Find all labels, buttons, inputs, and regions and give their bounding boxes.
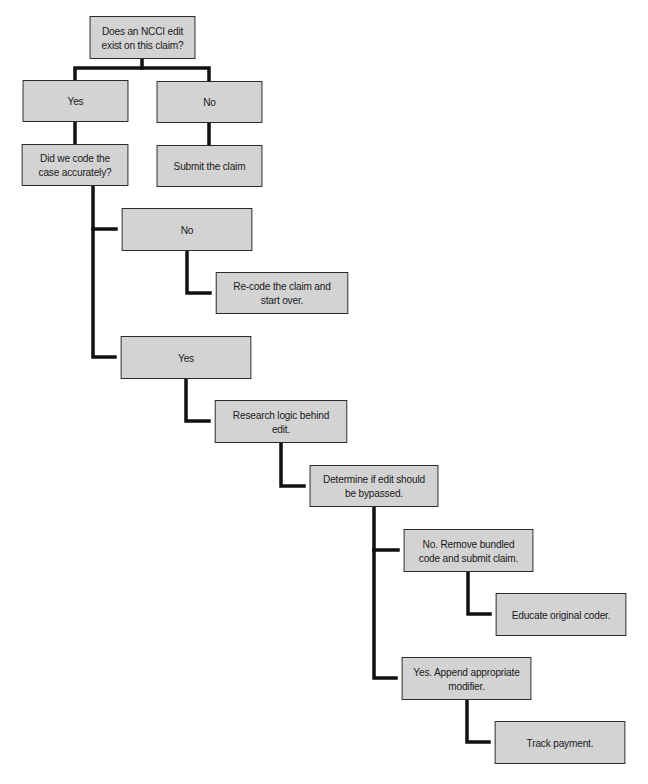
flow-node-track-payment: Track payment. <box>495 721 626 764</box>
flow-node-append-modifier: Yes. Append appropriate modifier. <box>402 657 532 700</box>
flow-node-submit-claim: Submit the claim <box>157 145 263 187</box>
flow-node-accurate: Yes <box>121 336 252 379</box>
flow-node-coded-accurately-question: Did we code the case accurately? <box>22 144 129 186</box>
flow-node-determine-bypass: Determine if edit should be bypassed. <box>310 465 439 507</box>
flow-node-research-logic: Research logic behind edit. <box>215 400 347 443</box>
flow-node-recode-claim: Re-code the claim and start over. <box>216 272 348 314</box>
flow-node-yes-edit-exists: Yes <box>23 80 129 122</box>
flow-node-no-edit: No <box>157 81 263 123</box>
flow-node-not-accurate: No <box>122 208 253 251</box>
flow-node-remove-bundled-code: No. Remove bundled code and submit claim… <box>404 529 534 572</box>
flow-node-ncci-edit-question: Does an NCCI edit exist on this claim? <box>90 16 196 59</box>
flow-node-educate-coder: Educate original coder. <box>496 593 627 636</box>
